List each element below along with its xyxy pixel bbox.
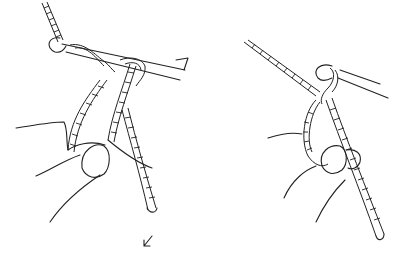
hook-head-right [316, 65, 332, 80]
right-figure [244, 40, 388, 240]
thumb-right [321, 146, 346, 174]
left-figure [16, 2, 188, 246]
yarn-loop-left [68, 80, 100, 150]
yarn-top-right [244, 42, 316, 96]
yarn-loop-right [304, 100, 328, 166]
bottom-arrow-icon [144, 236, 152, 246]
crochet-illustration [0, 0, 399, 256]
yarn-tail-right [326, 100, 376, 236]
hand-right [268, 133, 302, 138]
thumb-left [82, 145, 109, 177]
hand-left [16, 122, 68, 150]
